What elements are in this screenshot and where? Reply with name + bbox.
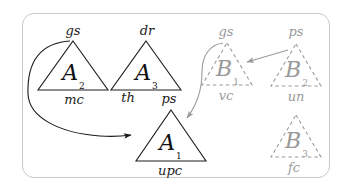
node-A1-glyph: A (159, 130, 175, 155)
node-A3-name: A3 (135, 62, 157, 86)
node-A1-name: A1 (159, 132, 181, 156)
node-B2-glyph: B (285, 57, 301, 82)
node-A3-subscript: 3 (152, 81, 158, 91)
node-B3-name: B3 (285, 130, 307, 154)
node-B1-name: B1 (216, 58, 238, 82)
node-A2-glyph: A (62, 60, 78, 85)
node-B1-subscript: 1 (233, 77, 239, 87)
node-A2-subscript: 2 (79, 81, 85, 91)
edge-b2-b1 (247, 50, 288, 62)
node-B3-glyph: B (285, 128, 301, 153)
node-A1-subscript: 1 (176, 151, 182, 161)
figure-canvas: gs A2 mc dr A3 th ps A1 upc gs B1 vc ps … (0, 0, 349, 192)
node-B2-name: B2 (285, 59, 307, 83)
node-A3-glyph: A (135, 60, 151, 85)
node-B2-subscript: 2 (302, 78, 308, 88)
node-A2-name: A2 (62, 62, 84, 86)
node-B1-glyph: B (216, 56, 232, 81)
node-B3-subscript: 3 (302, 149, 308, 159)
diagram-svg (0, 0, 349, 192)
